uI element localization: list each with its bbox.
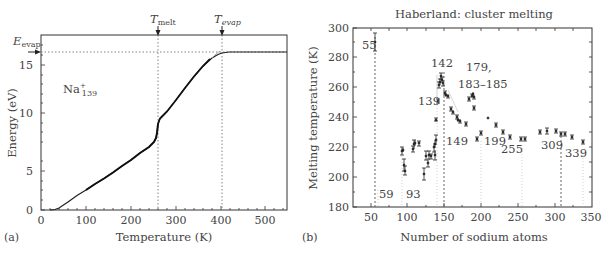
chart-title-b: Haberland: cluster melting: [395, 7, 553, 21]
panel-a: 0 5 10 15 0 100 200 300 400 500 Temperat…: [4, 12, 287, 244]
label-139: 139: [418, 94, 440, 108]
t-melt-label: Tmelt: [150, 12, 177, 27]
panel-label-b: (b): [302, 231, 318, 244]
panel-label-a: (a): [4, 231, 19, 244]
y-axis-title-a: Energy (eV): [5, 88, 19, 158]
x-tick-200: 200: [121, 214, 142, 227]
figure: 0 5 10 15 0 100 200 300 400 500 Temperat…: [0, 0, 606, 255]
x-tick-350: 350: [581, 211, 602, 224]
y-tick-10: 10: [19, 107, 33, 120]
magic-number-labels: 55 59 93 139 142 149 179, 183–185 199 25…: [362, 38, 587, 201]
panel-b: Haberland: cluster melting 180 200 220 2…: [302, 7, 602, 244]
y-tick-5: 5: [26, 165, 33, 178]
x-tick-300: 300: [545, 211, 566, 224]
caloric-curve: [50, 51, 287, 210]
x-tick-250: 250: [508, 211, 529, 224]
y-tick-240: 240: [328, 111, 349, 124]
x-tick-400: 400: [211, 214, 232, 227]
x-tick-100: 100: [76, 214, 97, 227]
y-tick-labels-b: 180 200 220 240 260 280 300: [328, 22, 349, 214]
label-255: 255: [501, 142, 523, 156]
label-309: 309: [541, 138, 563, 152]
label-149: 149: [446, 134, 468, 148]
y-tick-180: 180: [328, 201, 349, 214]
data-points: [373, 33, 585, 180]
label-93: 93: [406, 187, 421, 201]
x-axis-title-a: Temperature (K): [116, 230, 213, 244]
y-tick-220: 220: [328, 141, 349, 154]
y-tick-300: 300: [328, 22, 349, 35]
x-axis-a: [50, 206, 283, 210]
x-tick-500: 500: [255, 214, 276, 227]
e-evap-label: Eevap: [12, 34, 41, 49]
x-tick-labels-a: 0 100 200 300 400 500: [38, 214, 276, 227]
label-59: 59: [379, 187, 394, 201]
label-142: 142: [431, 56, 453, 70]
x-tick-200: 200: [471, 211, 492, 224]
x-tick-50: 50: [364, 211, 378, 224]
y-axis-title-b: Melting temperature (K): [306, 46, 320, 189]
y-tick-200: 200: [328, 171, 349, 184]
x-axis-title-b: Number of sodium atoms: [400, 230, 548, 244]
label-179: 179,: [466, 60, 492, 74]
x-tick-100: 100: [397, 211, 418, 224]
label-183-185: 183–185: [458, 77, 508, 91]
y-tick-labels-a: 0 5 10 15: [19, 59, 33, 217]
y-tick-15: 15: [19, 59, 33, 72]
x-tick-150: 150: [434, 211, 455, 224]
x-tick-0: 0: [38, 214, 45, 227]
y-axis-a: [41, 45, 45, 210]
x-tick-300: 300: [166, 214, 187, 227]
x-axis-b: [371, 28, 573, 207]
e-evap-arrow-icon: [28, 50, 41, 55]
y-axis-b: [353, 28, 592, 207]
species-label: Na+139: [63, 82, 97, 98]
y-tick-260: 260: [328, 81, 349, 94]
y-tick-0: 0: [26, 204, 33, 217]
y-tick-280: 280: [328, 51, 349, 64]
label-339: 339: [565, 146, 587, 160]
label-55: 55: [362, 38, 377, 52]
t-evap-label: Tevap: [214, 12, 241, 27]
plot-frame-a: [41, 35, 287, 210]
plot-frame-b: [353, 28, 592, 207]
x-tick-labels-b: 50 100 150 200 250 300 350: [364, 211, 602, 224]
